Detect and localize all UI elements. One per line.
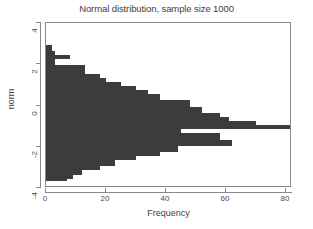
x-axis-tick-label: 80 — [273, 194, 297, 203]
y-axis-tick-label: 2 — [30, 62, 39, 82]
x-axis-title: Frequency — [45, 208, 292, 218]
plot-frame — [45, 22, 291, 187]
x-axis-tick — [225, 188, 226, 193]
plot-area — [46, 23, 290, 186]
x-axis-tick-label: 60 — [213, 194, 237, 203]
x-axis-tick — [285, 188, 286, 193]
y-axis-title: norm — [6, 79, 16, 119]
y-axis-tick-label: 4 — [30, 21, 39, 41]
y-axis-tick-label: 0 — [30, 103, 39, 123]
x-axis-tick-label: 20 — [93, 194, 117, 203]
x-axis-tick — [165, 188, 166, 193]
x-axis-tick-label: 0 — [33, 194, 57, 203]
x-axis-tick — [45, 188, 46, 193]
x-axis-tick — [105, 188, 106, 193]
chart-figure: Normal distribution, sample size 1000 42… — [0, 0, 313, 229]
x-axis-line — [45, 192, 292, 193]
y-axis-tick-label: -2 — [30, 144, 39, 164]
histogram-bar — [46, 179, 67, 181]
chart-title: Normal distribution, sample size 1000 — [0, 3, 313, 14]
x-axis-tick-label: 40 — [153, 194, 177, 203]
